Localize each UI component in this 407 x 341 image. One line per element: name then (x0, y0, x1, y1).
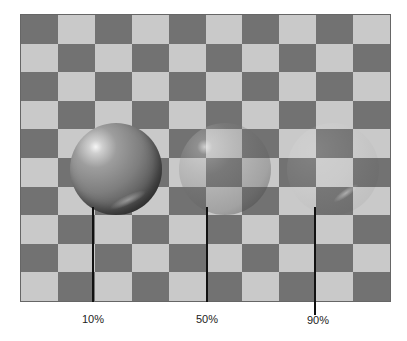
checker-cell (353, 272, 390, 301)
checker-cell (316, 272, 353, 301)
sphere-90-percent (287, 123, 379, 215)
checker-cell (95, 15, 132, 44)
pointer-line-50 (206, 207, 208, 302)
checker-cell (242, 15, 279, 44)
checker-cell (206, 72, 243, 101)
checker-cell (21, 72, 58, 101)
checker-cell (132, 244, 169, 273)
checker-cell (95, 72, 132, 101)
checker-cell (242, 44, 279, 73)
checker-cell (21, 272, 58, 301)
checker-cell (206, 244, 243, 273)
checker-cell (169, 244, 206, 273)
checker-cell (316, 244, 353, 273)
checker-cell (279, 72, 316, 101)
checker-cell (206, 44, 243, 73)
checker-cell (242, 215, 279, 244)
checker-cell (279, 244, 316, 273)
checker-cell (316, 215, 353, 244)
checker-cell (132, 101, 169, 130)
checker-cell (58, 101, 95, 130)
checker-cell (21, 244, 58, 273)
checker-cell (132, 215, 169, 244)
pointer-line-10 (92, 207, 94, 302)
checker-cell (206, 215, 243, 244)
label-50: 50% (196, 313, 218, 325)
checker-cell (21, 101, 58, 130)
checker-cell (21, 129, 58, 158)
label-90: 90% (307, 314, 329, 326)
checker-cell (58, 272, 95, 301)
checker-cell (58, 15, 95, 44)
pointer-line-90 (314, 207, 316, 315)
checker-cell (279, 215, 316, 244)
checker-cell (316, 72, 353, 101)
checker-cell (58, 72, 95, 101)
checker-cell (169, 72, 206, 101)
checker-cell (21, 187, 58, 216)
checker-cell (169, 15, 206, 44)
checker-cell (132, 44, 169, 73)
checker-cell (242, 272, 279, 301)
label-10: 10% (82, 313, 104, 325)
sphere-10-percent (70, 123, 162, 215)
checker-cell (206, 15, 243, 44)
checker-cell (21, 215, 58, 244)
checker-cell (58, 215, 95, 244)
checker-cell (279, 101, 316, 130)
checker-cell (242, 101, 279, 130)
checker-cell (21, 44, 58, 73)
checker-cell (58, 244, 95, 273)
checker-cell (353, 72, 390, 101)
sphere-50-percent (179, 123, 271, 215)
checker-cell (279, 272, 316, 301)
checker-cell (95, 215, 132, 244)
checker-cell (132, 72, 169, 101)
checker-cell (353, 215, 390, 244)
checker-cell (95, 44, 132, 73)
checker-cell (21, 15, 58, 44)
checker-cell (353, 15, 390, 44)
checker-cell (21, 158, 58, 187)
checker-cell (316, 15, 353, 44)
checker-cell (279, 15, 316, 44)
checker-cell (95, 272, 132, 301)
checker-cell (132, 272, 169, 301)
checker-cell (206, 272, 243, 301)
checker-cell (353, 44, 390, 73)
checker-cell (353, 244, 390, 273)
checker-cell (353, 101, 390, 130)
checker-cell (316, 44, 353, 73)
checker-cell (279, 44, 316, 73)
checker-cell (58, 44, 95, 73)
checker-cell (169, 215, 206, 244)
checker-cell (242, 244, 279, 273)
checker-cell (242, 72, 279, 101)
checker-cell (169, 44, 206, 73)
checker-cell (132, 15, 169, 44)
checker-cell (169, 272, 206, 301)
checker-cell (95, 244, 132, 273)
checker-cell (169, 101, 206, 130)
